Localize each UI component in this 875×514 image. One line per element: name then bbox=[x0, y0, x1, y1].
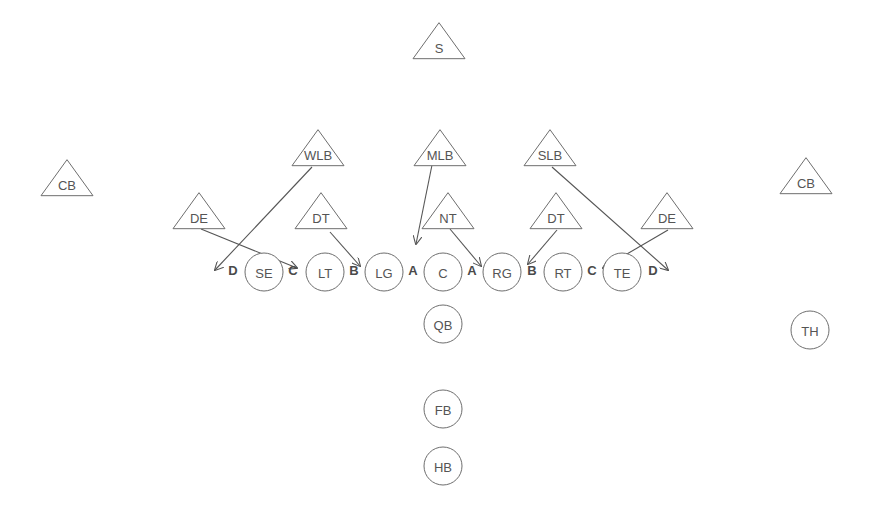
player-label: QB bbox=[434, 318, 453, 333]
gap-label: A bbox=[467, 263, 477, 278]
defender-label: DT bbox=[547, 211, 564, 226]
offense-player-th: TH bbox=[791, 311, 829, 349]
player-label: RT bbox=[554, 266, 571, 281]
offense-layer: SELTLGCRGRTTEQBFBHBTH bbox=[245, 253, 829, 485]
gap-label: A bbox=[408, 263, 418, 278]
gap-label: C bbox=[288, 263, 298, 278]
formation-diagram: SCBCBWLBMLBSLBDEDTNTDTDE SELTLGCRGRTTEQB… bbox=[0, 0, 875, 514]
defender-label: MLB bbox=[427, 148, 454, 163]
offense-player-te: TE bbox=[603, 253, 641, 291]
defender-de-r: DE bbox=[641, 193, 693, 229]
offense-player-rg: RG bbox=[483, 253, 521, 291]
gap-label: C bbox=[587, 263, 597, 278]
player-label: C bbox=[438, 266, 447, 281]
offense-player-lt: LT bbox=[306, 253, 344, 291]
player-label: TE bbox=[614, 266, 631, 281]
offense-player-lg: LG bbox=[365, 253, 403, 291]
defender-cb-r: CB bbox=[780, 158, 832, 194]
defender-label: DT bbox=[312, 211, 329, 226]
defender-mlb: MLB bbox=[414, 130, 466, 166]
offense-player-hb: HB bbox=[424, 447, 462, 485]
player-label: LG bbox=[375, 266, 392, 281]
defender-wlb: WLB bbox=[292, 130, 344, 166]
player-label: LT bbox=[318, 266, 332, 281]
player-label: RG bbox=[492, 266, 512, 281]
defender-de-l: DE bbox=[173, 193, 225, 229]
defense-layer: SCBCBWLBMLBSLBDEDTNTDTDE bbox=[41, 23, 832, 229]
gap-label: B bbox=[349, 263, 358, 278]
route-arrow-mlb bbox=[416, 165, 432, 244]
player-label: HB bbox=[434, 460, 452, 475]
gap-label: D bbox=[648, 263, 657, 278]
defender-s: S bbox=[413, 23, 465, 59]
defender-label: NT bbox=[439, 211, 456, 226]
defender-cb-l: CB bbox=[41, 160, 93, 196]
gap-label: D bbox=[228, 263, 237, 278]
offense-player-qb: QB bbox=[424, 305, 462, 343]
defender-dt-r: DT bbox=[530, 193, 582, 229]
defender-label: DE bbox=[190, 211, 208, 226]
defender-dt-l: DT bbox=[295, 193, 347, 229]
player-label: SE bbox=[255, 266, 273, 281]
offense-player-fb: FB bbox=[424, 390, 462, 428]
player-label: FB bbox=[435, 403, 452, 418]
player-label: TH bbox=[801, 324, 818, 339]
defender-label: CB bbox=[58, 178, 76, 193]
offense-player-c: C bbox=[424, 253, 462, 291]
offense-player-se: SE bbox=[245, 253, 283, 291]
defender-slb: SLB bbox=[524, 130, 576, 166]
offense-player-rt: RT bbox=[544, 253, 582, 291]
defender-label: SLB bbox=[538, 148, 563, 163]
diagram-canvas: SCBCBWLBMLBSLBDEDTNTDTDE SELTLGCRGRTTEQB… bbox=[0, 0, 875, 514]
defender-label: WLB bbox=[304, 148, 332, 163]
defender-label: DE bbox=[658, 211, 676, 226]
gap-label: B bbox=[527, 263, 536, 278]
defender-label: S bbox=[435, 41, 444, 56]
defender-label: CB bbox=[797, 176, 815, 191]
defender-nt: NT bbox=[422, 193, 474, 229]
